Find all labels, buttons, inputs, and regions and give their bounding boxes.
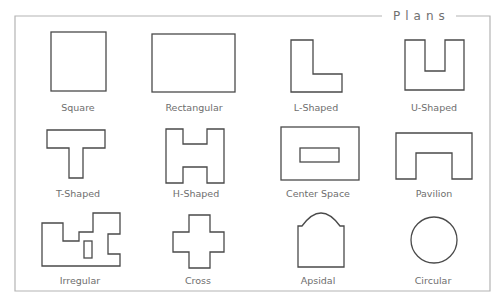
pavilion-shape [396,133,472,179]
plan-h-shaped: H-Shaped [166,129,224,199]
l-shaped-shape [291,40,342,92]
apsidal-shape [298,213,344,267]
t-shaped-shape [47,130,105,178]
circular-shape [411,217,457,263]
plan-label: Pavilion [416,188,453,199]
plan-label: Rectangular [165,102,222,113]
plan-label: Circular [415,275,452,286]
plan-label: Cross [185,275,211,286]
center-space-outer-shape [281,127,359,180]
plan-rectangular: Rectangular [152,34,235,113]
square-shape [51,32,106,91]
plan-t-shaped: T-Shaped [47,130,105,199]
cross-shape [173,215,224,268]
irregular-inner-shape [84,241,92,258]
center-space-inner-shape [300,148,339,162]
plan-square: Square [51,32,106,113]
plan-pavilion: Pavilion [396,133,472,199]
irregular-shape [42,213,120,266]
plan-center-space: Center Space [281,127,359,199]
plan-cross: Cross [173,215,224,286]
rectangular-shape [152,34,235,92]
diagram-title: Plans [393,9,450,23]
plan-u-shaped: U-Shaped [405,40,464,113]
h-shaped-shape [166,129,224,183]
u-shaped-shape [405,40,464,90]
plan-label: H-Shaped [173,188,219,199]
plan-label: U-Shaped [411,102,457,113]
plan-label: Apsidal [301,275,336,286]
plan-label: Square [61,102,95,113]
plan-l-shaped: L-Shaped [291,40,342,113]
plan-irregular: Irregular [42,213,120,286]
plan-circular: Circular [411,217,457,286]
plans-diagram: Plans Square Rectangular L-Shaped U-Shap… [0,0,504,304]
plan-apsidal: Apsidal [298,213,344,286]
plan-label: L-Shaped [294,102,338,113]
plan-label: Irregular [60,275,101,286]
plan-label: Center Space [286,188,350,199]
plan-label: T-Shaped [55,188,100,199]
